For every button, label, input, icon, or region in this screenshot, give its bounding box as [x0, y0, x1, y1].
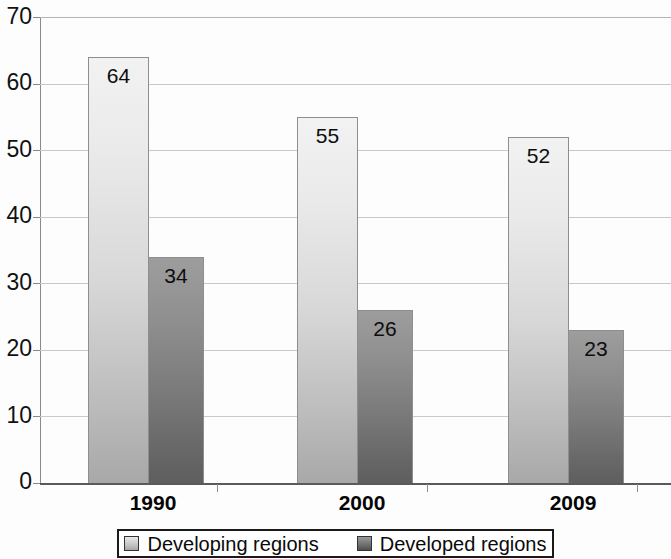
x-tick-mark-2009: [637, 484, 638, 492]
bar-value-label: 26: [358, 318, 412, 339]
bar-value-label: 64: [89, 65, 148, 86]
bar-developing-1990[interactable]: 64: [88, 57, 149, 483]
bar-value-label: 34: [149, 265, 203, 286]
chart-legend: Developing regions Developed regions: [117, 529, 554, 558]
bar-developed-1990[interactable]: 34: [148, 257, 204, 483]
bar-developed-2000[interactable]: 26: [357, 310, 413, 483]
bar-value-label: 55: [298, 125, 357, 146]
legend-swatch-icon: [124, 536, 139, 551]
y-axis-labels: 70 60 50 40 30 20 10 0: [0, 0, 32, 559]
plot-area: 64 34 55 26 52 23: [40, 17, 671, 483]
bar-chart: 70 60 50 40 30 20 10 0 64 34 55: [0, 0, 671, 559]
legend-item-developed-regions[interactable]: Developed regions: [357, 534, 547, 554]
y-tick-label-10: 10: [2, 404, 32, 427]
y-tick-label-0: 0: [2, 470, 32, 493]
x-tick-mark-2000: [427, 484, 428, 492]
y-tick-label-50: 50: [2, 138, 32, 161]
bar-developed-2009[interactable]: 23: [568, 330, 624, 483]
x-axis-line: [40, 483, 671, 485]
y-tick-label-70: 70: [2, 5, 32, 28]
x-axis-label-1990: 1990: [98, 492, 208, 513]
legend-swatch-icon: [357, 536, 372, 551]
legend-item-developing-regions[interactable]: Developing regions: [124, 534, 318, 554]
bar-developing-2009[interactable]: 52: [508, 137, 569, 483]
x-axis-label-2000: 2000: [307, 492, 417, 513]
y-tick-label-60: 60: [2, 71, 32, 94]
gridline-70: [40, 17, 671, 18]
bar-value-label: 23: [569, 338, 623, 359]
x-axis-label-2009: 2009: [518, 492, 628, 513]
y-tick-label-30: 30: [2, 271, 32, 294]
y-tick-label-40: 40: [2, 204, 32, 227]
x-tick-mark-1990: [217, 484, 218, 492]
legend-label: Developing regions: [147, 534, 318, 554]
y-tick-label-20: 20: [2, 337, 32, 360]
legend-label: Developed regions: [380, 534, 547, 554]
bar-value-label: 52: [509, 145, 568, 166]
bar-developing-2000[interactable]: 55: [297, 117, 358, 483]
